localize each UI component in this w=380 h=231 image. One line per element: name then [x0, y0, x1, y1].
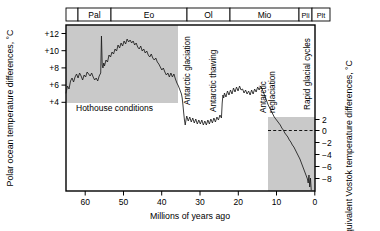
right-axis-title: Equivalent Vostok temperature difference…: [344, 59, 354, 231]
annotation-antarctic-thawing: Antarctic thawing: [209, 49, 218, 112]
chart-svg: Pal Eo Ol Mio Pli Plt +12 +10 +8 +6 +4: [0, 0, 380, 231]
epoch-label-mio: Mio: [258, 10, 272, 20]
right-tick-label-m8: −8: [322, 174, 332, 184]
bottom-tick-label-50: 50: [119, 197, 129, 207]
epoch-cell-pre: [66, 8, 78, 21]
right-tick-label-m6: −6: [322, 162, 332, 172]
bottom-tick-label-0: 0: [312, 197, 317, 207]
bottom-tick-label-30: 30: [195, 197, 205, 207]
epoch-label-pli: Pli: [302, 11, 310, 20]
chart-figure: Pal Eo Ol Mio Pli Plt +12 +10 +8 +6 +4: [0, 0, 380, 231]
left-tick-label-12: +12: [45, 29, 60, 39]
left-axis: +12 +10 +8 +6 +4: [45, 29, 66, 108]
epoch-label-plt: Plt: [317, 11, 325, 20]
annotation-hothouse: Hothouse conditions: [76, 103, 153, 113]
left-tick-label-4: +4: [49, 97, 59, 107]
annotation-antarctic-reglaciation-line1: Antarctic: [259, 81, 268, 113]
right-axis: 2 0 −2 −4 −6 −8: [315, 115, 332, 184]
right-tick-label-m2: −2: [322, 138, 332, 148]
right-tick-label-m4: −4: [322, 150, 332, 160]
epoch-label-pal: Pal: [88, 10, 100, 20]
right-tick-label-0: 0: [322, 126, 327, 136]
annotation-rapid-glacial-cycles: Rapid glacial cycles: [303, 38, 312, 110]
annotation-antarctic-reglaciation-line2: reglaciation: [268, 71, 277, 113]
bottom-tick-label-20: 20: [234, 197, 244, 207]
right-tick-label-2: 2: [322, 115, 327, 125]
epoch-label-eo: Eo: [144, 10, 155, 20]
bottom-tick-label-40: 40: [157, 197, 167, 207]
epoch-bar: Pal Eo Ol Mio Pli Plt: [66, 8, 330, 21]
bottom-tick-label-60: 60: [80, 197, 90, 207]
epoch-label-ol: Ol: [204, 10, 213, 20]
bottom-tick-label-10: 10: [272, 197, 282, 207]
annotation-antarctic-glaciation: Antarctic glaciation: [183, 36, 192, 105]
left-tick-label-10: +10: [45, 46, 60, 56]
bottom-axis: 60 50 40 30 20 10 0: [80, 191, 317, 207]
left-axis-title: Polar ocean temperature differences, °C: [5, 29, 15, 187]
left-tick-label-6: +6: [49, 80, 59, 90]
hothouse-band: [66, 25, 178, 103]
bottom-axis-title: Millions of years ago: [150, 211, 230, 221]
left-tick-label-8: +8: [49, 63, 59, 73]
